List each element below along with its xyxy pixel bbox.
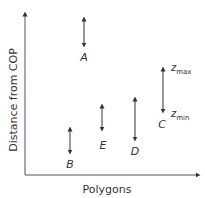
polygon-label: A bbox=[79, 51, 88, 64]
axes bbox=[25, 14, 198, 175]
polygon-label: D bbox=[131, 145, 139, 158]
polygon-b: B bbox=[66, 129, 74, 171]
zmax-annotation: zmax bbox=[170, 62, 192, 76]
zmin-annotation: zmin bbox=[170, 108, 189, 122]
zmin-subscript: min bbox=[176, 114, 189, 122]
polygon-label: C bbox=[158, 118, 166, 131]
polygon-depth-diagram: Distance from COP Polygons A B E D C zma… bbox=[0, 0, 205, 198]
x-axis-label: Polygons bbox=[83, 183, 132, 196]
polygon-e: E bbox=[100, 106, 107, 152]
y-axis-label: Distance from COP bbox=[7, 48, 20, 152]
polygon-d: D bbox=[131, 99, 139, 158]
polygon-c: C zmax zmin bbox=[158, 62, 191, 131]
polygon-a: A bbox=[79, 19, 88, 64]
zmax-subscript: max bbox=[176, 68, 191, 76]
polygon-label: E bbox=[100, 139, 107, 152]
polygon-label: B bbox=[66, 158, 74, 171]
